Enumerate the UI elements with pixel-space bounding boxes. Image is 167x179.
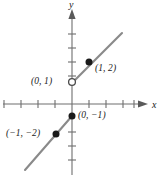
lower-branch-line <box>25 116 72 170</box>
graph-canvas <box>0 0 167 179</box>
point-label-neg1-neg2: (−1, −2) <box>6 129 40 139</box>
x-axis-label: x <box>152 100 156 110</box>
point-marker-filled-neg1-neg2 <box>53 131 60 138</box>
x-axis <box>3 100 148 108</box>
y-axis <box>68 9 76 175</box>
y-axis-arrowhead <box>68 9 75 19</box>
x-axis-arrowhead <box>138 100 148 107</box>
point-marker-open-0-1 <box>69 79 76 86</box>
point-label-0-neg1: (0, −1) <box>78 111 106 121</box>
y-axis-label: y <box>69 0 73 10</box>
point-marker-filled-1-2 <box>86 59 93 66</box>
point-label-0-1: (0, 1) <box>31 77 52 87</box>
upper-branch-line <box>73 33 122 82</box>
point-marker-filled-0-neg1 <box>69 113 76 120</box>
point-label-1-2: (1, 2) <box>95 64 116 74</box>
coordinate-graph-figure: x y (0, 1) (1, 2) (0, −1) (−1, −2) <box>0 0 167 179</box>
